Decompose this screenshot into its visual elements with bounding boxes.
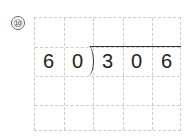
dividend-digit: 3 <box>93 49 122 73</box>
problem-number: ⑩ <box>11 16 25 30</box>
grid-line <box>93 18 94 130</box>
grid-line <box>152 18 153 130</box>
grid-line <box>35 76 180 77</box>
grid-line <box>64 18 65 130</box>
grid-line <box>35 47 180 48</box>
divisor-digit: 6 <box>34 49 63 73</box>
grid-line <box>35 105 180 106</box>
grid-line <box>123 18 124 130</box>
answer-grid <box>34 17 181 131</box>
dividend-digit: 0 <box>122 49 151 73</box>
problem-number-label: ⑩ <box>13 17 23 29</box>
dividend-digit: 6 <box>152 49 181 73</box>
division-vinculum <box>90 46 181 47</box>
